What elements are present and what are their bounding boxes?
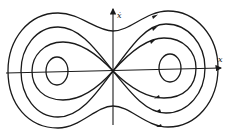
phase-portrait: x ẋ (0, 0, 229, 135)
left-inner-orbit (46, 57, 68, 85)
y-axis-label: ẋ (117, 11, 122, 20)
x-axis-label: x (218, 55, 223, 64)
right-inner-orbit (159, 54, 181, 82)
arrow-icon (152, 15, 158, 20)
homoclinic-right (113, 38, 196, 98)
